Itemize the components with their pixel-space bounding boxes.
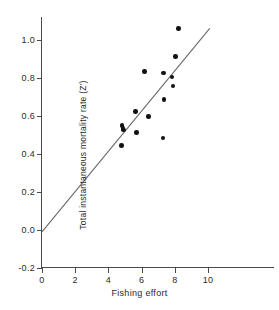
y-tick-mark — [37, 154, 42, 155]
x-tick-mark — [142, 268, 143, 273]
x-tick-mark — [108, 268, 109, 273]
y-tick-mark — [37, 116, 42, 117]
y-tick-label: 0.0 — [22, 225, 35, 235]
y-tick-label: 1.0 — [22, 35, 35, 45]
x-tick-label: 2 — [73, 275, 78, 285]
x-tick-label: 6 — [139, 275, 144, 285]
x-tick-label: 10 — [203, 275, 214, 285]
x-tick-label: 4 — [106, 275, 111, 285]
y-tick-label: -0.2 — [18, 263, 35, 273]
x-tick-mark — [208, 268, 209, 273]
data-point — [121, 128, 126, 133]
data-point — [161, 136, 166, 141]
y-tick-label: 0.4 — [22, 149, 35, 159]
x-tick-mark — [175, 268, 176, 273]
y-tick-mark — [37, 192, 42, 193]
data-point — [142, 69, 147, 74]
x-tick-label: 8 — [172, 275, 177, 285]
data-point — [134, 130, 139, 135]
data-point — [161, 71, 166, 76]
x-tick-label: 0 — [39, 275, 44, 285]
scatter-plot-figure: 1.00.80.60.40.20.0-0.2 0246810 Total ins… — [0, 0, 279, 310]
data-point — [133, 109, 138, 114]
x-axis-label: Fishing effort — [0, 288, 279, 298]
data-point — [146, 114, 151, 119]
y-tick-mark — [37, 40, 42, 41]
data-point — [170, 75, 175, 80]
data-point — [119, 143, 124, 148]
x-tick-mark — [42, 268, 43, 273]
y-axis-label: Total instantaneous mortality rate (Z') — [78, 80, 88, 229]
y-tick-mark — [37, 230, 42, 231]
x-tick-mark — [75, 268, 76, 273]
y-tick-label: 0.8 — [22, 73, 35, 83]
plot-area: 1.00.80.60.40.20.0-0.2 0246810 — [42, 17, 238, 268]
data-point — [176, 26, 181, 31]
data-point — [171, 84, 176, 89]
y-tick-label: 0.2 — [22, 187, 35, 197]
data-point — [173, 54, 178, 59]
data-point — [162, 97, 167, 102]
y-tick-label: 0.6 — [22, 111, 35, 121]
y-tick-mark — [37, 78, 42, 79]
